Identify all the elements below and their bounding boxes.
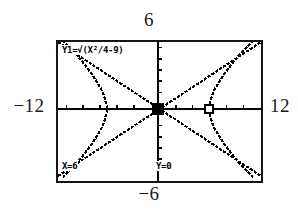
function-expression-label: Y1=√(X²/4-9) [61, 45, 124, 55]
trace-cursor-marker [205, 105, 213, 113]
window-label-xmin: −12 [4, 96, 54, 115]
origin-cursor-marker [152, 103, 164, 115]
calculator-display[interactable]: Y1=√(X²/4-9) X=6 Y=0 [56, 40, 263, 183]
trace-y-readout: Y=0 [155, 161, 172, 171]
trace-x-readout: X=6 [61, 161, 78, 171]
window-label-xmax: 12 [263, 96, 297, 115]
calculator-screenshot: 6 −12 12 −6 [0, 0, 298, 213]
window-label-ymax: 6 [0, 10, 298, 29]
window-label-ymin: −6 [0, 184, 298, 203]
